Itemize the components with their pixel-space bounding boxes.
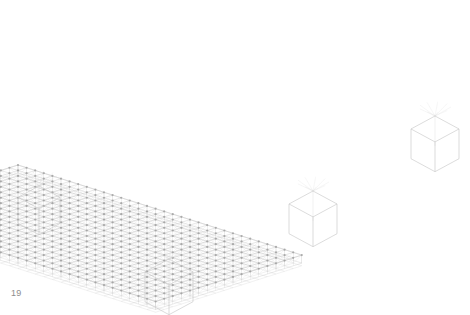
- space-truss-diagram: [0, 0, 470, 315]
- bottom-chord-layer: [0, 176, 302, 313]
- support-cube-layer: [18, 116, 459, 315]
- support-leg-layer: [26, 102, 451, 259]
- figure-canvas: 19: [0, 0, 470, 315]
- web-diagonal-layer: [0, 165, 302, 307]
- figure-number-label: 19: [11, 288, 22, 299]
